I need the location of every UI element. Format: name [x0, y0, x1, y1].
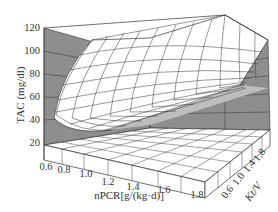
z-axis-label: TAC (mg/dl): [14, 66, 27, 123]
x-tick-1.2: 1.2: [101, 176, 114, 187]
x-tick-0.6: 0.6: [39, 161, 52, 172]
x-tick-0.8: 0.8: [57, 164, 70, 175]
y-tick-0.6: 0.6: [219, 183, 236, 200]
z-tick-80: 80: [30, 68, 41, 79]
y-axis-label: Kt/V: [241, 179, 264, 204]
x-tick-1.8: 1.8: [190, 189, 203, 200]
x-axis-label: nPCR[g/(kg·d)]: [94, 189, 164, 202]
surface-chart: 120 100 80 60 40 20 TAC (mg/dl) 0.6 0.8 …: [0, 0, 278, 212]
z-axis-ticks: 120 100 80 60 40 20: [24, 22, 40, 148]
z-tick-120: 120: [24, 22, 40, 33]
z-tick-20: 20: [30, 137, 41, 148]
z-tick-40: 40: [30, 114, 41, 125]
z-tick-60: 60: [30, 91, 41, 102]
x-tick-1.0: 1.0: [79, 168, 92, 179]
z-tick-100: 100: [24, 45, 40, 56]
